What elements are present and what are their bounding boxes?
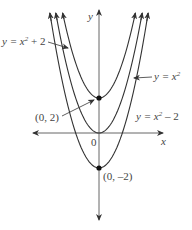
curve-x2-plus-2-leader bbox=[48, 42, 68, 48]
curve-arrow-icon bbox=[134, 13, 135, 19]
point-label-0-neg2: (0, –2) bbox=[103, 170, 133, 183]
parabola-graph: x y 0 (0, 2) (0, –2) y = x2 + 2 y = x2 y… bbox=[0, 0, 192, 230]
curve-arrow-icon bbox=[147, 13, 148, 21]
y-axis-label: y bbox=[87, 10, 93, 22]
x-axis-label: x bbox=[160, 135, 166, 147]
curve-arrow-icon bbox=[141, 13, 142, 20]
curve-label-x2-plus-2: y = x2 + 2 bbox=[1, 35, 45, 47]
curve-label-x2-minus-2: y = x2 – 2 bbox=[135, 110, 179, 122]
curve-label-x2: y = x2 bbox=[153, 70, 181, 82]
origin-label: 0 bbox=[91, 136, 97, 148]
curve-arrow-icon bbox=[56, 13, 57, 20]
curve-arrow-icon bbox=[63, 13, 64, 19]
curve-arrow-icon bbox=[50, 13, 51, 21]
point-0-2 bbox=[96, 95, 101, 100]
point-0-neg2 bbox=[96, 165, 101, 170]
point-label-0-2: (0, 2) bbox=[35, 111, 59, 124]
